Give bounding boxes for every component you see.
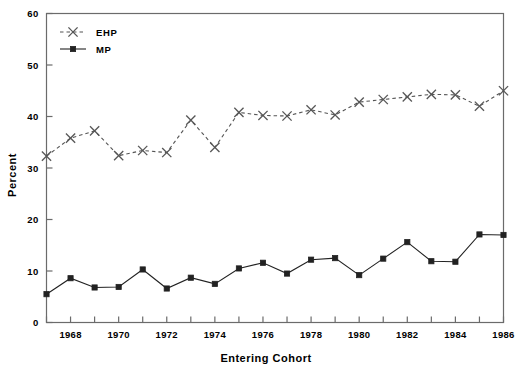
y-axis-label: Percent	[6, 153, 18, 197]
legend-label: EHP	[96, 27, 117, 38]
x-tick-label: 1982	[396, 329, 418, 340]
chart-container: 0102030405060 19681970197219741976197819…	[0, 0, 530, 369]
y-tick-label: 40	[27, 111, 38, 122]
x-tick-label: 1980	[348, 329, 370, 340]
x-tick-label: 1968	[59, 329, 81, 340]
y-tick-label: 10	[27, 266, 38, 277]
y-tick-label: 30	[27, 163, 38, 174]
y-tick-label: 50	[27, 60, 38, 71]
x-tick-label: 1976	[252, 329, 274, 340]
y-tick-label: 60	[27, 8, 38, 19]
chart-background	[0, 0, 530, 369]
y-tick-label: 20	[27, 214, 38, 225]
legend-label: MP	[96, 44, 112, 55]
x-axis-label: Entering Cohort	[220, 352, 311, 364]
y-tick-label: 0	[33, 317, 39, 328]
x-tick-label: 1978	[300, 329, 322, 340]
x-tick-label: 1970	[107, 329, 129, 340]
x-tick-label: 1986	[492, 329, 514, 340]
x-tick-label: 1974	[204, 329, 227, 340]
x-tick-label: 1972	[156, 329, 178, 340]
percent-by-entering-cohort-line-chart: 0102030405060 19681970197219741976197819…	[0, 0, 530, 369]
x-tick-label: 1984	[444, 329, 467, 340]
